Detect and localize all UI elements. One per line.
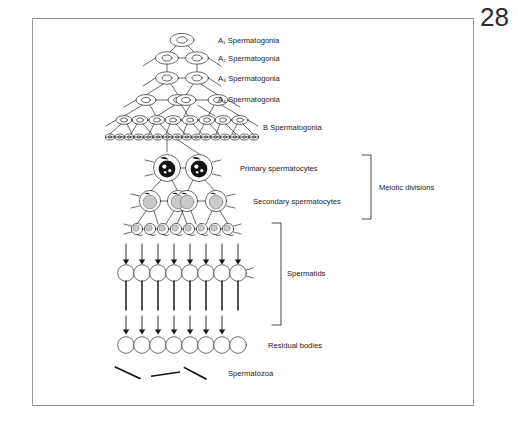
label-b-spermatogonia: B Spermatogonia — [263, 123, 322, 132]
label-residual-bodies: Residual bodies — [268, 341, 322, 350]
stage-a1-cells — [170, 33, 194, 46]
label-a3-spermatogonia: A₃ Spermatogonia — [218, 74, 281, 83]
label-primary-spermatocytes: Primary spermatocytes — [240, 164, 318, 173]
stage-round-spermatid-cells — [118, 265, 253, 282]
label-secondary-spermatocytes: Secondary spermatocytes — [253, 197, 341, 206]
spermatogenesis-diagram: A₁ Spermatogonia A₂ Spermatogonia A₃ Spe… — [0, 0, 518, 424]
label-a2-spermatogonia: A₂ Spermatogonia — [218, 54, 280, 63]
label-a1-spermatogonia: A₁ Spermatogonia — [218, 36, 280, 45]
label-meiotic-divisions: Meiotic divisions — [379, 183, 434, 192]
label-spermatozoa: Spermatozoa — [228, 369, 274, 378]
label-a4-spermatogonia: A₄ Spermatogonia — [218, 95, 281, 104]
figure-root: 28 — [0, 0, 518, 424]
label-spermatids: Spermatids — [287, 269, 326, 278]
